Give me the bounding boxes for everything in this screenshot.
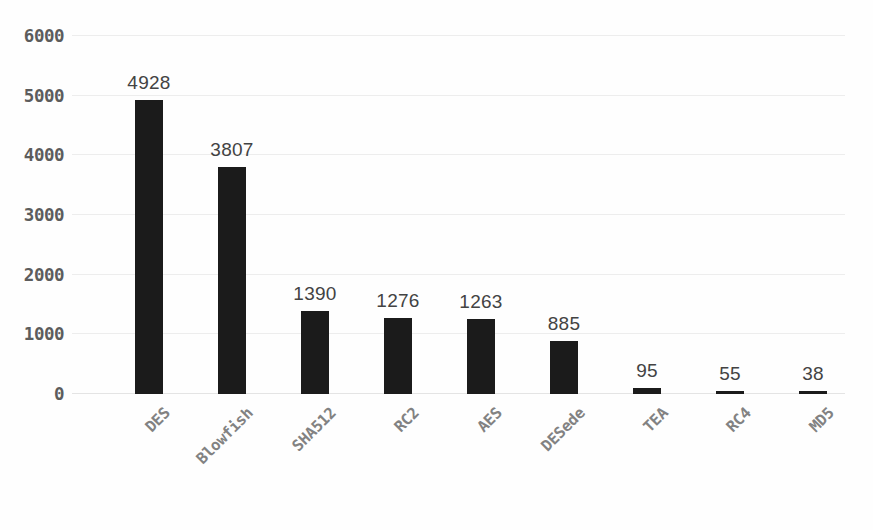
bar-group[interactable]: 4928 xyxy=(135,36,163,394)
bar-md5[interactable] xyxy=(799,391,827,394)
y-axis-tick-label: 4000 xyxy=(0,145,64,165)
bar-group[interactable]: 38 xyxy=(799,36,827,394)
x-axis-tick-text: SHA512 xyxy=(289,404,340,455)
y-axis-tick-label: 3000 xyxy=(0,205,64,225)
bar-sha512[interactable] xyxy=(301,311,329,394)
x-axis-tick-text: MD5 xyxy=(806,404,838,436)
bar-group[interactable]: 95 xyxy=(633,36,661,394)
bar-value-label: 1276 xyxy=(376,290,419,312)
x-axis-tick-text: DESede xyxy=(538,404,589,455)
bar-group[interactable]: 55 xyxy=(716,36,744,394)
y-axis-tick-label: 0 xyxy=(0,384,64,404)
bar-value-label: 55 xyxy=(719,363,741,385)
bar-aes[interactable] xyxy=(467,319,495,394)
y-axis-tick-label: 2000 xyxy=(0,265,64,285)
bar-desede[interactable] xyxy=(550,341,578,394)
bar-group[interactable]: 1390 xyxy=(301,36,329,394)
bar-blowfish[interactable] xyxy=(218,167,246,394)
bar-value-label: 95 xyxy=(636,360,658,382)
plot-area: 49283807139012761263885955538 xyxy=(72,36,845,394)
x-axis-tick-text: DES xyxy=(142,404,174,436)
bar-chart: 0100020003000400050006000 49283807139012… xyxy=(0,0,873,530)
y-axis-tick-label: 1000 xyxy=(0,324,64,344)
y-axis-tick-label: 5000 xyxy=(0,86,64,106)
bar-value-label: 4928 xyxy=(127,72,170,94)
x-axis: DESBlowfishSHA512RC2AESDESedeTEARC4MD5 xyxy=(72,396,845,516)
x-axis-tick-text: RC4 xyxy=(723,404,755,436)
x-axis-tick-text: Blowfish xyxy=(193,404,257,468)
bar-value-label: 885 xyxy=(548,313,581,335)
bar-des[interactable] xyxy=(135,100,163,394)
bar-value-label: 38 xyxy=(802,363,824,385)
x-axis-tick-text: RC2 xyxy=(391,404,423,436)
bar-rc2[interactable] xyxy=(384,318,412,394)
x-axis-tick-text: TEA xyxy=(640,404,672,436)
bar-group[interactable]: 3807 xyxy=(218,36,246,394)
x-axis-tick-text: AES xyxy=(474,404,506,436)
bar-group[interactable]: 1276 xyxy=(384,36,412,394)
bar-tea[interactable] xyxy=(633,388,661,394)
y-axis-tick-label: 6000 xyxy=(0,26,64,46)
bar-rc4[interactable] xyxy=(716,391,744,394)
bar-group[interactable]: 1263 xyxy=(467,36,495,394)
bar-value-label: 1390 xyxy=(293,283,336,305)
bar-value-label: 1263 xyxy=(459,291,502,313)
y-axis: 0100020003000400050006000 xyxy=(0,36,64,394)
bar-group[interactable]: 885 xyxy=(550,36,578,394)
bar-value-label: 3807 xyxy=(210,139,253,161)
